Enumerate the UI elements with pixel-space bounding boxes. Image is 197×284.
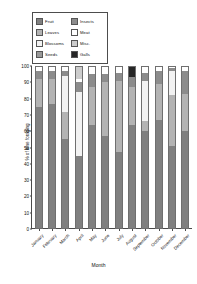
y-axis-tick-mark — [30, 147, 32, 148]
bar-segment-meat — [115, 66, 123, 73]
legend-swatch-icon — [71, 40, 78, 47]
bar-segment-meat — [181, 66, 189, 71]
legend-entry: Leaves — [36, 27, 69, 38]
bar-segment-blossoms — [61, 76, 69, 112]
bar-segment-meat — [88, 66, 96, 74]
x-axis-tick-mark — [119, 229, 120, 231]
bar-segment-insects — [88, 74, 96, 87]
bar-june — [101, 66, 109, 229]
y-axis-tick-label: 50 — [24, 145, 29, 150]
bar-segment-meat — [141, 66, 149, 73]
x-axis-tick-label: May — [88, 233, 97, 242]
bar-december — [181, 66, 189, 229]
bar-segment-leaves — [88, 87, 96, 124]
legend-entry: Insects — [71, 16, 104, 27]
legend-label: Leaves — [45, 30, 59, 35]
y-axis-tick-label: 70 — [24, 112, 29, 117]
legend-label: Galls — [80, 52, 90, 57]
bar-segment-leaves — [181, 94, 189, 131]
bar-segment-insects — [61, 71, 69, 76]
x-axis-tick-mark — [172, 229, 173, 231]
y-axis-tick-mark — [30, 163, 32, 164]
x-axis-tick-mark — [145, 229, 146, 231]
bar-september — [141, 66, 149, 229]
x-axis-tick-label: April — [74, 233, 84, 243]
x-axis-tick-mark — [185, 229, 186, 231]
y-axis-tick-mark — [30, 180, 32, 181]
y-axis-tick-mark — [30, 196, 32, 197]
legend-label: Seeds — [45, 52, 57, 57]
bar-segment-leaves — [101, 82, 109, 136]
bar-segment-meat — [61, 66, 69, 71]
bar-segment-fruit — [141, 131, 149, 229]
bar-segment-leaves — [128, 87, 136, 124]
legend-entry: Galls — [71, 49, 104, 60]
bar-segment-blossoms — [168, 71, 176, 95]
y-axis-tick-mark — [30, 229, 32, 230]
legend-swatch-icon — [71, 29, 78, 36]
y-axis-tick-label: 90 — [24, 80, 29, 85]
bar-segment-meat — [35, 66, 43, 71]
y-axis-tick-label: 40 — [24, 161, 29, 166]
bar-segment-leaves — [48, 79, 56, 103]
plot-area: 0102030405060708090100JanuaryFebruaryMar… — [32, 66, 192, 229]
bar-segment-fruit — [181, 131, 189, 229]
bar-segment-fruit — [48, 104, 56, 230]
bar-segment-leaves — [168, 95, 176, 146]
bar-segment-fruit — [168, 146, 176, 229]
bar-segment-fruit — [115, 152, 123, 229]
x-axis-tick-mark — [79, 229, 80, 231]
y-axis-tick-mark — [30, 114, 32, 115]
bar-segment-fruit — [128, 125, 136, 229]
y-axis-tick-label: 20 — [24, 194, 29, 199]
legend-swatch-icon — [71, 51, 78, 58]
x-axis-title: Month — [0, 262, 197, 268]
x-axis-tick-mark — [65, 229, 66, 231]
legend-entry: Misc. — [71, 38, 104, 49]
y-axis-tick-label: 60 — [24, 129, 29, 134]
legend-entry-grid: FruitInsectsLeavesMeatBlossomsMisc.Seeds… — [36, 16, 104, 60]
bar-segment-meat — [155, 66, 163, 71]
bar-segment-fruit — [35, 107, 43, 229]
y-axis-tick-label: 30 — [24, 178, 29, 183]
y-axis-tick-label: 0 — [26, 227, 29, 232]
bar-segment-insects — [155, 71, 163, 84]
bar-march — [61, 66, 69, 229]
x-axis-tick-mark — [52, 229, 53, 231]
y-axis-tick-mark — [30, 131, 32, 132]
bar-segment-fruit — [61, 139, 69, 229]
y-axis-tick-label: 100 — [21, 64, 29, 69]
legend-entry: Meat — [71, 27, 104, 38]
y-axis-tick-label: 80 — [24, 96, 29, 101]
bar-segment-meat — [48, 66, 56, 71]
legend-label: Fruit — [45, 19, 54, 24]
y-axis-tick-mark — [30, 212, 32, 213]
bar-segment-misc — [75, 66, 83, 79]
legend-swatch-icon — [36, 18, 43, 25]
x-axis-tick-mark — [92, 229, 93, 231]
bar-segment-leaves — [115, 81, 123, 153]
legend-label: Misc. — [80, 41, 90, 46]
legend-swatch-icon — [36, 51, 43, 58]
x-axis-tick-label: July — [115, 233, 124, 242]
y-axis-tick-mark — [30, 66, 32, 67]
y-axis-tick-label: 10 — [24, 210, 29, 215]
legend-swatch-icon — [71, 18, 78, 25]
legend-swatch-icon — [36, 29, 43, 36]
bar-january — [35, 66, 43, 229]
bar-segment-insects — [128, 77, 136, 87]
legend-label: Insects — [80, 19, 94, 24]
bar-april — [75, 66, 83, 229]
bar-segment-fruit — [155, 120, 163, 229]
bar-segment-fruit — [101, 136, 109, 229]
chart-legend: FruitInsectsLeavesMeatBlossomsMisc.Seeds… — [32, 12, 108, 64]
bar-segment-leaves — [155, 84, 163, 120]
x-axis-tick-label: June — [101, 233, 111, 243]
bar-segment-insects — [48, 71, 56, 79]
bar-segment-meat — [168, 66, 176, 68]
legend-entry: Blossoms — [36, 38, 69, 49]
legend-label: Meat — [80, 30, 90, 35]
bar-segment-insects — [101, 74, 109, 82]
x-axis-tick-mark — [132, 229, 133, 231]
bar-segment-fruit — [75, 156, 83, 229]
